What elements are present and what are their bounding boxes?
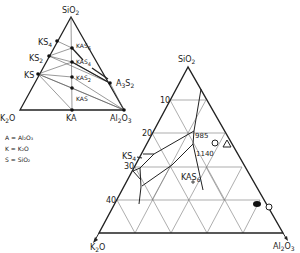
- small-ka-label: KA: [66, 114, 77, 123]
- small-kas-label: KAS: [76, 95, 88, 102]
- marker-circle-2: [266, 204, 272, 210]
- large-triangle-outline: [99, 67, 283, 233]
- large-kas6-label: KAS6: [181, 173, 201, 183]
- marker-circle-1: [212, 140, 218, 146]
- small-ternary-diagram: [20, 17, 126, 112]
- tick-20: 20: [142, 129, 152, 138]
- small-ks4-label: KS4: [38, 38, 52, 48]
- phase-diagram-figure: SiO2 KS4 KS2 KS K2O KA Al2O3 A3S2 KAS6 K…: [0, 0, 300, 253]
- tick-10: 10: [160, 96, 170, 105]
- legend-s: S = SiO₂: [5, 156, 31, 163]
- small-ks-label: KS: [24, 71, 34, 80]
- small-k2o-label: K2O: [0, 114, 15, 124]
- ks4-point-marker: [137, 157, 142, 158]
- small-ks2-label: KS2: [29, 54, 43, 64]
- small-a3s2-label: A3S2: [116, 79, 134, 89]
- large-al2o3-label: Al2O3: [273, 242, 295, 252]
- legend-a: A = Al₂O₃: [5, 134, 34, 141]
- small-al2o3-label: Al2O3: [110, 114, 132, 124]
- boundary-curves: [133, 89, 203, 204]
- large-grid: [117, 100, 260, 233]
- large-k2o-label: K2O: [90, 243, 105, 253]
- small-kas6-label: KAS6: [76, 42, 91, 51]
- temp-985: 985: [195, 132, 208, 140]
- legend: A = Al₂O₃ K = K₂O S = SiO₂: [5, 134, 34, 163]
- tick-30: 30: [124, 162, 134, 171]
- large-ks4-label: KS4: [122, 152, 136, 162]
- marker-filled-blob: [253, 201, 261, 207]
- al2o3-arrowhead-icon: [284, 236, 288, 241]
- legend-k: K = K₂O: [5, 145, 29, 152]
- large-sio2-label: SiO2: [178, 55, 196, 65]
- small-sio2-label: SiO2: [62, 6, 80, 16]
- temp-1140: 1140: [196, 150, 214, 158]
- tick-40: 40: [106, 196, 116, 205]
